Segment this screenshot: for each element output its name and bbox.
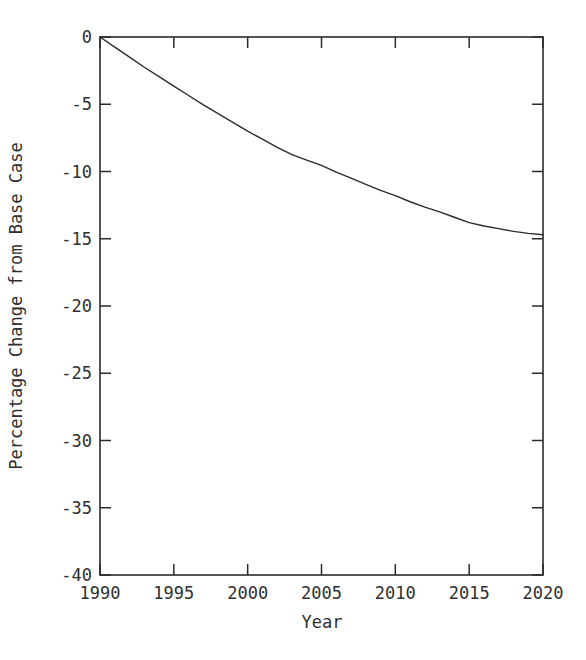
- data-series-line: [100, 37, 543, 235]
- x-axis-title: Year: [302, 612, 343, 632]
- x-tick-label: 1995: [153, 583, 194, 603]
- y-tick-label: -5: [10, 94, 92, 114]
- chart-figure: 0-5-10-15-20-25-30-35-40 199019952000200…: [0, 0, 586, 660]
- y-tick-label: -40: [10, 565, 92, 585]
- x-tick-label: 1990: [80, 583, 121, 603]
- y-axis-title: Percentage Change from Base Case: [6, 142, 26, 470]
- x-tick-label: 2005: [301, 583, 342, 603]
- y-axis-ticks: [100, 37, 543, 575]
- x-axis-ticks: [100, 37, 543, 575]
- x-tick-label: 2010: [375, 583, 416, 603]
- axes-frame: [100, 37, 543, 575]
- x-tick-label: 2020: [523, 583, 564, 603]
- x-tick-label: 2015: [449, 583, 490, 603]
- y-tick-label: -35: [10, 498, 92, 518]
- y-tick-label: 0: [10, 27, 92, 47]
- x-tick-label: 2000: [227, 583, 268, 603]
